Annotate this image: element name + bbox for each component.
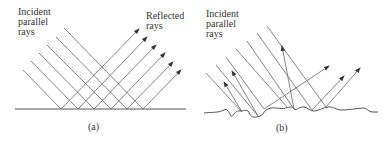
incident-rays-label: Incident parallel rays xyxy=(18,7,51,37)
caption-a: (a) xyxy=(88,121,99,132)
rough-surface-line xyxy=(204,107,378,117)
reflected-rays-label: Reflected rays xyxy=(146,11,184,31)
panel-diffuse-reflection: Incident parallel rays (b) xyxy=(194,0,388,146)
reflected-rays xyxy=(61,29,181,109)
incident-rays-label: Incident parallel rays xyxy=(206,9,239,39)
caption-b: (b) xyxy=(276,122,288,133)
incident-rays xyxy=(23,28,143,109)
panel-specular-reflection: Incident parallel rays Reflected rays (a… xyxy=(0,0,194,146)
incident-rays xyxy=(206,26,326,116)
